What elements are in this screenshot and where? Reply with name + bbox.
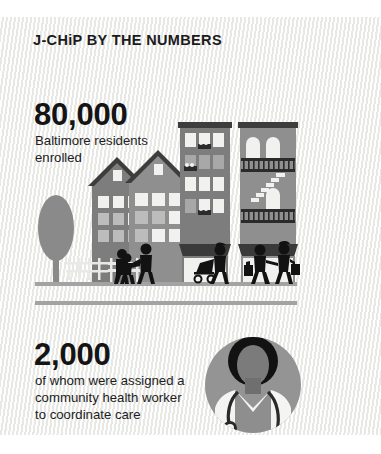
stat-number-enrolled: 80,000	[34, 99, 128, 130]
bench-icon	[108, 258, 140, 282]
flower-box-icon	[198, 207, 211, 215]
face-icon	[237, 345, 269, 385]
stat-description-line: Baltimore residents	[35, 132, 215, 149]
rowhouse-fire-escape-icon	[238, 122, 298, 284]
stroller-figure	[194, 243, 229, 284]
pedestrian-figure	[130, 244, 155, 285]
page-title: J-CHiP BY THE NUMBERS	[33, 32, 222, 48]
stethoscope-chestpiece-icon	[225, 423, 236, 434]
stat-description-line: to coordinate care	[35, 406, 235, 423]
pedestrian-pair-figure	[244, 241, 300, 284]
section-divider	[35, 301, 297, 305]
ground-line	[35, 282, 297, 286]
fence-icon	[66, 258, 108, 280]
stat-description-chw: of whom were assigned a community health…	[35, 372, 235, 423]
stat-description-line: of whom were assigned a	[35, 372, 235, 389]
stethoscope-icon	[228, 392, 278, 430]
pedestrian-child-figure	[120, 254, 140, 285]
stat-description-line: community health worker	[35, 389, 235, 406]
pedestrian-figure	[114, 249, 129, 284]
stat-description-enrolled: Baltimore residents enrolled	[35, 132, 215, 166]
fire-escape-stair-icon	[251, 173, 285, 202]
stat-description-line: enrolled	[35, 149, 215, 166]
infographic-poster: J-CHiP BY THE NUMBERS 80,000 Baltimore r…	[0, 0, 381, 454]
stat-number-chw: 2,000	[34, 339, 111, 370]
hair-icon	[228, 336, 278, 386]
poster-content: J-CHiP BY THE NUMBERS 80,000 Baltimore r…	[0, 0, 381, 454]
tree-icon	[38, 195, 74, 284]
house-icon	[125, 150, 191, 284]
house-icon	[88, 157, 146, 284]
